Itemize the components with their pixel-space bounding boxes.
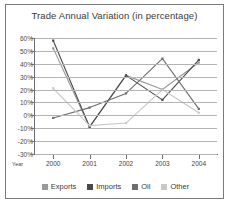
x-axis-tick-mark [199,155,200,159]
gridline [35,128,217,129]
x-axis-tick-label: 2004 [192,160,206,167]
data-point-exports-2000 [52,47,54,49]
x-axis-tick-mark [90,155,91,159]
y-axis-tick-label: -30% [9,151,33,158]
gridline [35,90,217,91]
y-axis-tick-label: 30% [9,73,33,80]
y-axis-tick-mark [31,38,35,39]
x-axis-tick-label: 2002 [119,160,133,167]
x-axis-tick-label: 2003 [155,160,169,167]
x-axis-tick-label: 2001 [82,160,96,167]
data-point-imports-2003 [161,99,163,101]
chart-legend: ExportsImportsOilOther [6,182,225,191]
y-axis-labels: 60%50%40%30%20%10%0%-10%-20%-30% [8,38,33,154]
y-axis-tick-label: -20% [9,138,33,145]
y-axis-tick-mark [31,90,35,91]
legend-swatch-icon [87,184,93,190]
legend-item-oil[interactable]: Oil [132,182,150,191]
y-axis-tick-mark [31,51,35,52]
legend-swatch-icon [132,184,138,190]
x-axis-tick-mark [162,155,163,159]
data-point-oil-2001 [89,107,91,109]
y-axis-tick-mark [31,141,35,142]
gridline [35,115,217,116]
y-axis-tick-label: -10% [9,125,33,132]
y-axis-tick-mark [31,77,35,78]
legend-label: Oil [141,182,150,191]
data-point-oil-2003 [161,58,163,60]
x-axis-tick-label: 2000 [46,160,60,167]
series-line-imports [53,41,199,127]
y-axis-tick-label: 10% [9,99,33,106]
y-axis-tick-label: 60% [9,35,33,42]
gridline [35,51,217,52]
chart-title: Trade Annual Variation (in percentage) [6,10,223,21]
y-axis-tick-mark [31,128,35,129]
data-point-other-2002 [125,122,127,124]
legend-swatch-icon [42,184,48,190]
y-axis-tick-mark [31,154,35,155]
legend-item-imports[interactable]: Imports [87,182,121,191]
x-axis-tick-mark [126,155,127,159]
y-axis-tick-mark [31,115,35,116]
chart-container: Trade Annual Variation (in percentage) 6… [5,4,224,199]
data-point-other-2001 [89,125,91,127]
legend-label: Imports [96,182,121,191]
series-line-oil [53,59,199,118]
data-point-imports-2000 [52,39,54,41]
gridline [35,64,217,65]
y-axis-tick-label: 50% [9,47,33,54]
data-point-other-2004 [198,112,200,114]
legend-label: Other [170,182,189,191]
x-axis-tick-mark [53,155,54,159]
gridline [35,77,217,78]
legend-label: Exports [51,182,76,191]
x-axis-title: Year [12,161,23,167]
gridline [35,38,217,39]
data-point-oil-2002 [125,92,127,94]
y-axis-tick-mark [31,64,35,65]
legend-item-exports[interactable]: Exports [42,182,76,191]
chart-lines [35,38,217,154]
legend-item-other[interactable]: Other [161,182,189,191]
gridline [35,141,217,142]
y-axis-tick-label: 20% [9,86,33,93]
y-axis-tick-mark [31,102,35,103]
data-point-imports-2004 [198,59,200,61]
legend-swatch-icon [161,184,167,190]
y-axis-tick-label: 40% [9,60,33,67]
data-point-oil-2000 [52,117,54,119]
y-axis-tick-label: 0% [9,112,33,119]
gridline [35,102,217,103]
data-point-oil-2004 [198,108,200,110]
plot-area [35,38,217,154]
